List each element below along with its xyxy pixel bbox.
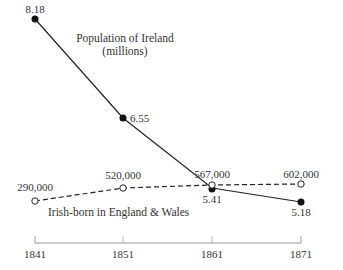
series-title: (millions) — [102, 45, 148, 58]
data-label: 8.18 — [25, 3, 45, 15]
data-label: 567,000 — [194, 168, 230, 180]
data-label: 5.18 — [291, 206, 311, 218]
data-label: 5.41 — [202, 193, 221, 205]
data-label: 290,000 — [17, 181, 53, 193]
population-marker — [120, 115, 127, 122]
data-label: 602,000 — [283, 168, 319, 180]
series-title: Irish-born in England & Wales — [48, 206, 190, 219]
irish-born-line — [35, 184, 301, 201]
x-tick-label: 1851 — [112, 248, 134, 260]
population-line — [35, 19, 301, 202]
irish-born-marker — [298, 181, 304, 187]
x-tick-label: 1841 — [24, 248, 46, 260]
x-tick-label: 1861 — [201, 248, 223, 260]
data-label: 520,000 — [105, 169, 141, 181]
irish-born-marker — [209, 182, 215, 188]
irish-born-marker — [32, 198, 38, 204]
population-marker — [32, 16, 39, 23]
data-label: 6.55 — [130, 112, 150, 124]
series-title: Population of Ireland — [76, 32, 174, 45]
x-tick-label: 1871 — [290, 248, 312, 260]
population-marker — [298, 199, 305, 206]
irish-born-marker — [120, 185, 126, 191]
chart: 1841 1851 1861 1871 8.18 6.55 5.41 5.18 … — [0, 0, 343, 270]
